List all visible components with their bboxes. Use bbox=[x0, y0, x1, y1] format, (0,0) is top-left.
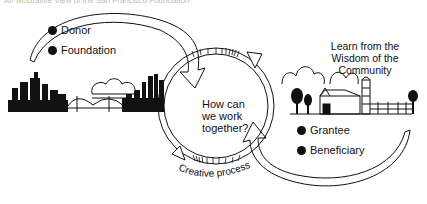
creative-process-label: Creative process bbox=[177, 159, 251, 179]
label-donor: Donor bbox=[61, 25, 91, 36]
bullet-icon-donor bbox=[48, 26, 57, 35]
center-question: How can we work together? bbox=[202, 98, 248, 134]
center-question-line-3: together? bbox=[202, 122, 248, 134]
label-grantee: Grantee bbox=[310, 125, 350, 136]
community-heading-line-1: Learn from the bbox=[310, 40, 420, 52]
bullet-icon-foundation bbox=[48, 46, 57, 55]
ring-hatching-bottom bbox=[193, 155, 240, 164]
label-beneficiary: Beneficiary bbox=[310, 145, 364, 156]
center-question-line-1: How can bbox=[202, 98, 248, 110]
community-heading-line-2: Wisdom of the Community bbox=[310, 52, 420, 76]
bullet-icon-beneficiary bbox=[297, 146, 306, 155]
label-foundation: Foundation bbox=[61, 45, 116, 56]
bullet-icon-grantee bbox=[297, 126, 306, 135]
center-question-line-2: we work bbox=[202, 110, 248, 122]
city-skyline-illustration bbox=[8, 72, 164, 112]
community-heading: Learn from the Wisdom of the Community bbox=[310, 40, 420, 76]
ring-hatching-top bbox=[192, 48, 239, 57]
diagram-canvas: An Illustrative View of the San Francisc… bbox=[0, 0, 427, 204]
